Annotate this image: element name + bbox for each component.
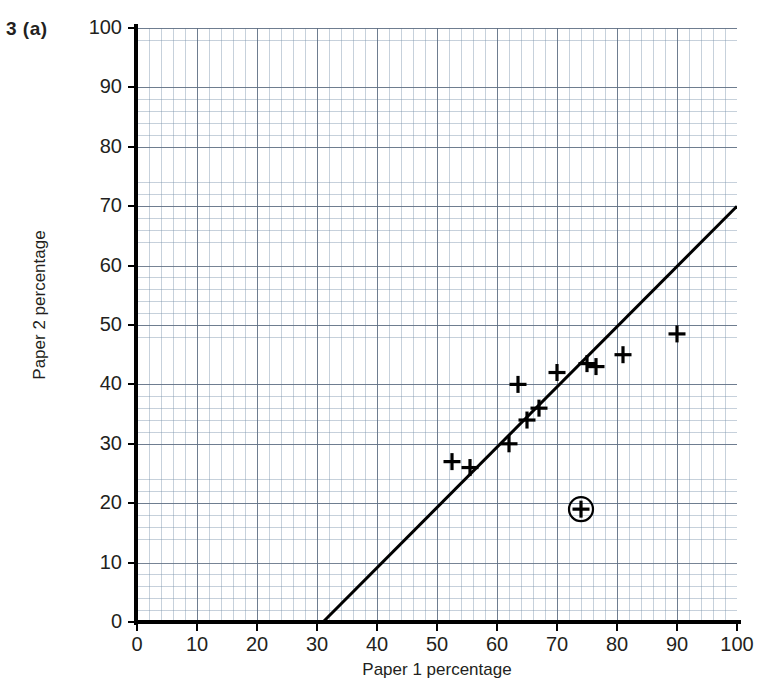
y-axis-title: Paper 2 percentage xyxy=(30,205,50,405)
x-axis-tick xyxy=(436,622,438,631)
data-point-circled xyxy=(569,497,593,521)
y-axis-tick-label: 20 xyxy=(62,491,122,514)
x-axis-tick xyxy=(136,622,138,631)
x-axis-tick xyxy=(616,622,618,631)
y-axis-tick xyxy=(128,86,137,88)
y-axis-tick-label: 40 xyxy=(62,372,122,395)
data-point xyxy=(669,325,686,342)
y-axis-tick xyxy=(128,205,137,207)
y-axis-tick-label: 70 xyxy=(62,194,122,217)
y-axis-tick-label: 0 xyxy=(62,610,122,633)
x-axis-tick xyxy=(376,622,378,631)
y-axis-tick xyxy=(128,562,137,564)
x-axis-tick xyxy=(196,622,198,631)
y-axis-tick-label: 100 xyxy=(62,16,122,39)
x-axis-tick xyxy=(316,622,318,631)
x-axis-tick-label: 100 xyxy=(707,633,758,656)
x-axis-tick-label: 0 xyxy=(107,633,167,656)
x-axis-tick-label: 30 xyxy=(287,633,347,656)
data-point xyxy=(519,412,536,429)
y-axis-tick xyxy=(128,265,137,267)
y-axis-tick xyxy=(128,621,137,623)
y-axis-tick-label: 30 xyxy=(62,432,122,455)
data-point xyxy=(615,346,632,363)
data-point xyxy=(462,459,479,476)
x-axis-tick xyxy=(256,622,258,631)
x-axis-title: Paper 1 percentage xyxy=(137,660,737,680)
trend-line xyxy=(323,206,737,622)
x-axis-tick-label: 80 xyxy=(587,633,647,656)
data-point xyxy=(588,358,605,375)
plot-svg xyxy=(137,28,737,622)
y-axis-tick xyxy=(128,443,137,445)
data-point xyxy=(501,435,518,452)
y-axis-tick xyxy=(128,324,137,326)
trend-line-segment xyxy=(323,206,737,622)
y-axis-tick xyxy=(128,502,137,504)
data-point xyxy=(510,376,527,393)
data-point xyxy=(549,364,566,381)
plot-area xyxy=(137,28,737,622)
data-points xyxy=(444,325,686,521)
x-axis-tick-label: 90 xyxy=(647,633,707,656)
x-axis-tick-label: 40 xyxy=(347,633,407,656)
y-axis-tick-label: 50 xyxy=(62,313,122,336)
y-axis-tick xyxy=(128,383,137,385)
graph-page: 3 (a) 0102030405060708090100 01020304050… xyxy=(0,0,758,700)
y-axis-tick xyxy=(128,146,137,148)
x-axis-tick-label: 20 xyxy=(227,633,287,656)
data-point xyxy=(579,355,596,372)
x-axis-tick-label: 10 xyxy=(167,633,227,656)
data-point xyxy=(531,400,548,417)
x-axis-tick xyxy=(736,622,738,631)
question-number-label: 3 (a) xyxy=(6,18,48,40)
x-axis-tick-label: 70 xyxy=(527,633,587,656)
data-point xyxy=(444,453,461,470)
x-axis-tick xyxy=(556,622,558,631)
x-axis-tick-label: 60 xyxy=(467,633,527,656)
y-axis-tick xyxy=(128,27,137,29)
y-axis-tick-label: 90 xyxy=(62,75,122,98)
y-axis-tick-label: 60 xyxy=(62,254,122,277)
y-axis-tick-label: 80 xyxy=(62,135,122,158)
x-axis-tick xyxy=(676,622,678,631)
y-axis-tick-label: 10 xyxy=(62,551,122,574)
x-axis-tick-label: 50 xyxy=(407,633,467,656)
x-axis-tick xyxy=(496,622,498,631)
